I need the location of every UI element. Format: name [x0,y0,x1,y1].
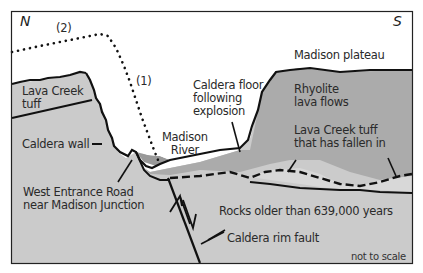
caldera-rim-fault-label: Caldera rim fault [227,232,319,245]
not-to-scale-note: not to scale [351,250,406,263]
caldera-floor-label: Caldera floor following explosion [193,79,263,118]
west-entrance-road-label: West Entrance Road near Madison Junction [23,186,144,212]
geologic-cross-section: N S (2) (1) Madison plateau Lava Creek t… [0,0,423,273]
compass-south: S [393,15,402,28]
fallen-tuff-label: Lava Creek tuff that has fallen in [294,124,386,150]
rhyolite-label: Rhyolite lava flows [294,83,348,109]
older-rocks-label: Rocks older than 639,000 years [219,205,393,218]
madison-plateau-label: Madison plateau [294,49,384,62]
compass-north: N [20,15,30,28]
path-2-label: (2) [56,22,71,35]
path-1-label: (1) [136,75,151,88]
caldera-wall-label: Caldera wall [22,138,89,151]
madison-river-label: Madison River [162,131,208,157]
lava-creek-tuff-label: Lava Creek tuff [22,85,83,111]
